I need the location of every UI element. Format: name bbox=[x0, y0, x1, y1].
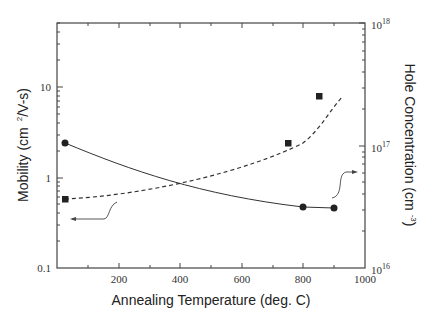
x-tick-600: 600 bbox=[234, 273, 251, 285]
y-right-tick-1e17: 1017 bbox=[371, 140, 390, 154]
mobility-line bbox=[65, 143, 334, 208]
right-arrow-head-icon bbox=[352, 170, 358, 174]
x-tick-200: 200 bbox=[111, 273, 128, 285]
x-tick-800: 800 bbox=[295, 273, 312, 285]
left-arrow-head-icon bbox=[70, 217, 76, 221]
right-axis-arrow bbox=[332, 172, 355, 198]
y-right-tick-1e18: 1018 bbox=[371, 17, 390, 31]
hole-concentration-point bbox=[285, 140, 292, 147]
y-axis-left-ticks bbox=[57, 23, 63, 241]
y-right-tick-1e16: 1016 bbox=[371, 262, 390, 276]
chart: 200 400 600 800 1000 0.1 1 10 1016 1017 … bbox=[0, 0, 425, 324]
x-axis-title: Annealing Temperature (deg. C) bbox=[112, 292, 311, 308]
y-axis-right-title: Hole Concentration (cm-3) bbox=[402, 64, 418, 227]
x-tick-400: 400 bbox=[172, 273, 189, 285]
left-axis-arrow bbox=[72, 202, 117, 219]
y-tick-0.1: 0.1 bbox=[37, 262, 51, 274]
hole-concentration-point bbox=[316, 93, 323, 100]
hole-concentration-point bbox=[62, 196, 69, 203]
mobility-point bbox=[62, 140, 69, 147]
mobility-point bbox=[331, 205, 338, 212]
plot-frame bbox=[57, 23, 365, 268]
y-tick-1: 1 bbox=[46, 172, 52, 184]
mobility-point bbox=[300, 204, 307, 211]
hole-concentration-line bbox=[65, 96, 343, 199]
y-tick-10: 10 bbox=[40, 81, 52, 93]
y-axis-left-title: Mobility (cm2/V-s) bbox=[15, 88, 31, 202]
y-axis-right-ticks bbox=[359, 23, 365, 231]
